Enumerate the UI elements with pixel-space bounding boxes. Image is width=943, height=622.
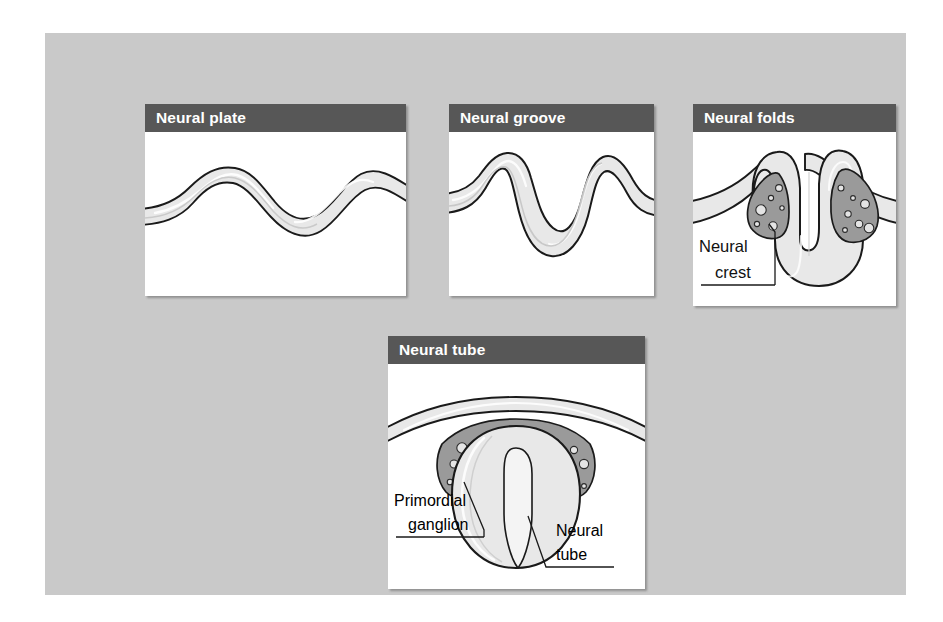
panel-neural-groove: Neural groove	[449, 104, 654, 296]
panel-neural-tube-header: Neural tube	[388, 336, 645, 364]
label-neural-tube-line2: tube	[556, 546, 587, 563]
neural-folds-diagram: Neural crest	[693, 132, 896, 306]
label-neural-crest-line1: Neural	[699, 237, 748, 255]
panel-neural-plate-header: Neural plate	[145, 104, 406, 132]
panel-neural-folds-body: Neural crest	[693, 132, 896, 306]
label-neural-tube-line1: Neural	[556, 522, 603, 539]
neural-tube-diagram: Primordial ganglion Neural tube	[388, 364, 645, 589]
panel-neural-tube: Neural tube	[388, 336, 645, 589]
neural-groove-diagram	[449, 132, 654, 296]
neural-groove-band	[449, 153, 654, 256]
figure-root: Neural plate Neural groove	[0, 0, 943, 622]
neural-plate-diagram	[145, 132, 406, 296]
panel-neural-folds-header: Neural folds	[693, 104, 896, 132]
figure-canvas: Neural plate Neural groove	[45, 33, 906, 595]
label-primordial-ganglion-line2: ganglion	[408, 516, 469, 533]
panel-neural-plate: Neural plate	[145, 104, 406, 296]
panel-neural-tube-body: Primordial ganglion Neural tube	[388, 364, 645, 589]
panel-neural-plate-body	[145, 132, 406, 296]
panel-neural-groove-header: Neural groove	[449, 104, 654, 132]
label-neural-crest-line2: crest	[715, 263, 751, 281]
panel-neural-groove-body	[449, 132, 654, 296]
panel-neural-folds: Neural folds	[693, 104, 896, 306]
label-primordial-ganglion-line1: Primordial	[394, 492, 466, 509]
